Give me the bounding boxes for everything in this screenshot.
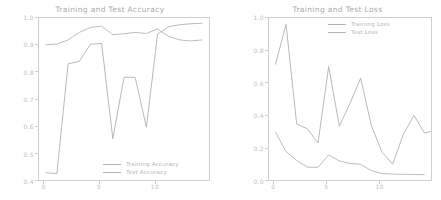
loss-chart-panel: Training and Test Loss 1.0 0.8 0.6 0.4 0… [220, 0, 441, 200]
y-tick-label: 0.6 [24, 123, 34, 130]
legend-item-test-loss: Test Loss [328, 28, 390, 36]
accuracy-plot-area [38, 17, 210, 181]
y-tick-label: 0.0 [254, 178, 264, 185]
test-accuracy-line [46, 26, 203, 44]
accuracy-plot-svg [39, 18, 209, 180]
loss-y-axis: 1.0 0.8 0.6 0.4 0.2 0.0 [232, 17, 264, 181]
legend-swatch-icon [103, 164, 121, 165]
legend-swatch-icon [328, 32, 346, 33]
legend-item-test-accuracy: Test Accuracy [103, 168, 179, 176]
legend-label: Training Accuracy [126, 160, 179, 168]
figure-canvas: Training and Test Accuracy 1.0 0.9 0.8 0… [0, 0, 441, 200]
accuracy-legend: Training Accuracy Test Accuracy [103, 160, 179, 176]
legend-swatch-icon [103, 172, 121, 173]
legend-item-training-loss: Training Loss [328, 20, 390, 28]
x-tick-label: 0 [271, 183, 275, 190]
legend-label: Test Loss [351, 28, 378, 36]
x-tick-label: 10 [151, 183, 159, 190]
x-tick-label: 5 [324, 183, 328, 190]
y-tick-label: 0.5 [24, 150, 34, 157]
loss-legend: Training Loss Test Loss [328, 20, 390, 36]
y-tick-label: 0.8 [254, 46, 264, 53]
y-tick-label: 0.4 [254, 112, 264, 119]
y-tick-label: 0.9 [24, 41, 34, 48]
accuracy-y-axis: 1.0 0.9 0.8 0.7 0.6 0.5 0.4 [2, 17, 34, 181]
accuracy-x-axis: 0 5 10 [38, 183, 210, 195]
x-tick-label: 5 [97, 183, 101, 190]
training-loss-line [275, 24, 431, 164]
y-tick-label: 0.6 [254, 79, 264, 86]
y-tick-label: 1.0 [24, 14, 34, 21]
x-tick-label: 0 [41, 183, 45, 190]
y-tick-label: 1.0 [254, 14, 264, 21]
legend-label: Training Loss [351, 20, 390, 28]
legend-label: Test Accuracy [126, 168, 167, 176]
x-tick-label: 10 [375, 183, 383, 190]
y-tick-label: 0.4 [24, 178, 34, 185]
y-tick-label: 0.7 [24, 96, 34, 103]
y-tick-label: 0.8 [24, 68, 34, 75]
loss-plot-svg [269, 18, 431, 180]
loss-x-axis: 0 5 10 [268, 183, 432, 195]
legend-swatch-icon [328, 24, 346, 25]
loss-plot-area [268, 17, 432, 181]
y-tick-label: 0.2 [254, 145, 264, 152]
training-accuracy-line [46, 23, 203, 173]
legend-item-training-accuracy: Training Accuracy [103, 160, 179, 168]
accuracy-chart-panel: Training and Test Accuracy 1.0 0.9 0.8 0… [0, 0, 220, 200]
